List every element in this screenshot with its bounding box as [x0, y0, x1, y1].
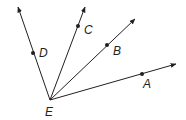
ray-ec [50, 7, 85, 100]
label-b: B [113, 44, 121, 58]
point-a [140, 72, 144, 76]
label-a: A [142, 77, 151, 91]
rays-diagram: ABCDE [0, 0, 186, 120]
label-e: E [45, 105, 54, 119]
label-c: C [84, 23, 93, 37]
point-c [76, 24, 80, 28]
point-d [31, 51, 35, 55]
label-d: D [39, 46, 48, 60]
point-b [105, 43, 109, 47]
geometry-diagram: ABCDE [0, 0, 186, 120]
